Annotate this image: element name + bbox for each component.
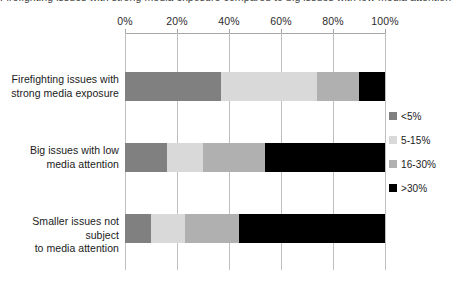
category-label-line: Smaller issues not subject: [0, 215, 119, 242]
x-tickmark: [125, 29, 126, 33]
bar-segment[interactable]: [359, 72, 385, 101]
x-tickmark: [281, 29, 282, 33]
category-label-line: strong media exposure: [0, 87, 119, 101]
category-label-line: Big issues with low: [0, 144, 119, 158]
category-label: Smaller issues not subjectto media atten…: [0, 215, 119, 256]
x-tick-label: 80%: [322, 15, 344, 27]
legend-label: 16-30%: [401, 159, 436, 170]
legend-label: <5%: [401, 111, 422, 122]
x-tickmark: [333, 29, 334, 33]
category-label: Firefighting issues withstrong media exp…: [0, 73, 119, 100]
x-tick-label: 100%: [371, 15, 399, 27]
bar-segment[interactable]: [185, 214, 240, 243]
bar-row: [125, 143, 385, 172]
category-axis-labels: Firefighting issues withstrong media exp…: [0, 0, 120, 289]
bar-segment[interactable]: [167, 143, 203, 172]
category-label-line: Firefighting issues with: [0, 73, 119, 87]
legend-swatch-icon: [389, 184, 397, 192]
plot-area: [125, 33, 385, 270]
legend-item[interactable]: >30%: [389, 182, 453, 194]
gridline: [385, 33, 386, 270]
legend-item[interactable]: 16-30%: [389, 158, 453, 170]
legend-swatch-icon: [389, 136, 397, 144]
bar-segment[interactable]: [151, 214, 185, 243]
x-axis-line: [125, 33, 385, 34]
category-label-line: to media attention: [0, 242, 119, 256]
x-tick-label: 40%: [218, 15, 240, 27]
bar-segment[interactable]: [221, 72, 317, 101]
legend-item[interactable]: <5%: [389, 110, 453, 122]
x-tick-label: 20%: [166, 15, 188, 27]
x-tickmark: [385, 29, 386, 33]
x-tick-label: 60%: [270, 15, 292, 27]
bar-segment[interactable]: [239, 214, 385, 243]
x-tickmark: [229, 29, 230, 33]
bar-segment[interactable]: [203, 143, 265, 172]
bar-segment[interactable]: [125, 214, 151, 243]
category-label-line: media attention: [0, 158, 119, 172]
bar-row: [125, 214, 385, 243]
bar-row: [125, 72, 385, 101]
bar-segment[interactable]: [125, 72, 221, 101]
bar-segment[interactable]: [317, 72, 359, 101]
bar-segment[interactable]: [265, 143, 385, 172]
stacked-bar-chart: Firefighting issues with strong media ex…: [0, 0, 453, 289]
chart-legend: <5%5-15%16-30%>30%: [389, 110, 453, 206]
legend-swatch-icon: [389, 160, 397, 168]
x-tickmark: [177, 29, 178, 33]
legend-label: >30%: [401, 183, 427, 194]
bar-segment[interactable]: [125, 143, 167, 172]
category-label: Big issues with lowmedia attention: [0, 144, 119, 171]
legend-label: 5-15%: [401, 135, 430, 146]
legend-item[interactable]: 5-15%: [389, 134, 453, 146]
legend-swatch-icon: [389, 112, 397, 120]
